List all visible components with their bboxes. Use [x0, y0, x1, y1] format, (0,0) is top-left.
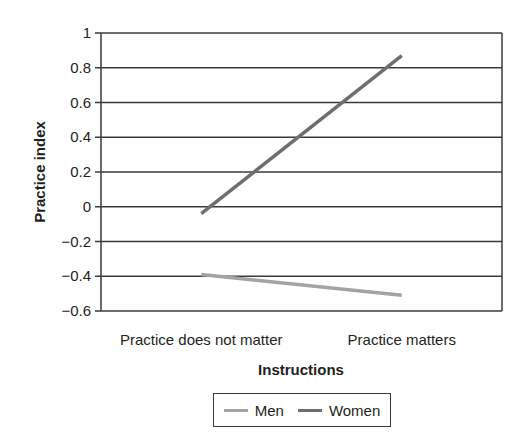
- y-tick-label: 0.8: [70, 59, 91, 76]
- y-tick-label: 0.4: [70, 128, 91, 145]
- y-tick-label: 0.2: [70, 163, 91, 180]
- series-line-women: [201, 56, 402, 214]
- line-chart: 10.80.60.40.20−0.2−0.4−0.6 Practice does…: [0, 0, 532, 441]
- gridlines: [95, 33, 502, 311]
- y-axis-title: Practice index: [31, 120, 48, 222]
- y-tick-label: 1: [83, 24, 91, 41]
- legend-label-men: Men: [255, 402, 284, 419]
- series-line-men: [201, 275, 402, 296]
- legend-swatch-men: [224, 409, 248, 412]
- chart-legend: Men Women: [213, 393, 391, 427]
- y-axis-tick-labels: 10.80.60.40.20−0.2−0.4−0.6: [61, 24, 91, 319]
- legend-swatch-women: [298, 409, 322, 412]
- y-tick-label: −0.6: [61, 302, 91, 319]
- y-tick-label: −0.4: [61, 267, 91, 284]
- x-category-label: Practice does not matter: [120, 331, 283, 348]
- y-tick-label: −0.2: [61, 233, 91, 250]
- data-series: [201, 56, 402, 296]
- legend-label-women: Women: [329, 402, 380, 419]
- legend-item-men: Men: [224, 402, 284, 419]
- legend-item-women: Women: [298, 402, 380, 419]
- y-tick-label: 0: [83, 198, 91, 215]
- x-axis-category-labels: Practice does not matterPractice matters: [120, 331, 456, 348]
- x-axis-title: Instructions: [258, 361, 344, 378]
- x-category-label: Practice matters: [348, 331, 456, 348]
- y-tick-label: 0.6: [70, 94, 91, 111]
